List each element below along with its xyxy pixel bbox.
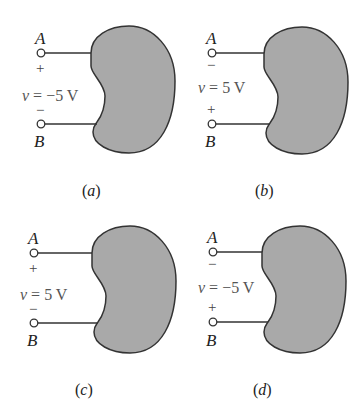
panel-a: A B + − v = −5 V (a) — [22, 26, 175, 200]
terminal-a-node — [37, 49, 45, 57]
terminal-b-label: B — [206, 331, 217, 350]
polarity-bottom-sign: + — [208, 299, 216, 315]
terminal-a-node — [209, 248, 217, 256]
voltage-label: v = −5 V — [198, 279, 255, 296]
panel-caption: (b) — [255, 182, 274, 200]
panel-caption: (d) — [253, 381, 272, 399]
polarity-bottom-sign: − — [29, 301, 37, 317]
terminal-a-label: A — [34, 29, 46, 48]
terminal-b-label: B — [27, 331, 38, 350]
polarity-top-sign: − — [207, 57, 215, 73]
panel-d: A B − + v = −5 V (d) — [198, 226, 346, 399]
panel-c: A B + − v = 5 V (c) — [20, 226, 176, 399]
polarity-top-sign: − — [208, 256, 216, 272]
terminal-a-node — [30, 249, 38, 257]
terminal-a-label: A — [205, 29, 217, 48]
polarity-top-sign: + — [29, 260, 37, 276]
black-box-element — [264, 27, 348, 154]
terminal-b-label: B — [34, 132, 45, 151]
panel-b: A B − + v = 5 V (b) — [198, 27, 348, 200]
terminal-b-node — [30, 319, 38, 327]
voltage-polarity-figure: A B + − v = −5 V (a) A B − + v = 5 V (b)… — [0, 0, 362, 411]
terminal-b-node — [208, 120, 216, 128]
terminal-a-label: A — [27, 229, 39, 248]
voltage-label: v = 5 V — [20, 286, 68, 303]
terminal-a-label: A — [206, 228, 218, 247]
voltage-label: v = −5 V — [22, 87, 79, 104]
polarity-bottom-sign: + — [207, 101, 215, 117]
black-box-element — [91, 26, 175, 153]
voltage-label: v = 5 V — [198, 79, 246, 96]
panel-caption: (c) — [75, 381, 93, 399]
black-box-element — [92, 226, 176, 353]
polarity-bottom-sign: − — [36, 102, 44, 118]
panel-caption: (a) — [82, 182, 101, 200]
terminal-b-node — [37, 120, 45, 128]
terminal-b-label: B — [205, 132, 216, 151]
black-box-element — [262, 226, 346, 353]
terminal-b-node — [209, 318, 217, 326]
terminal-a-node — [208, 49, 216, 57]
polarity-top-sign: + — [36, 60, 44, 76]
